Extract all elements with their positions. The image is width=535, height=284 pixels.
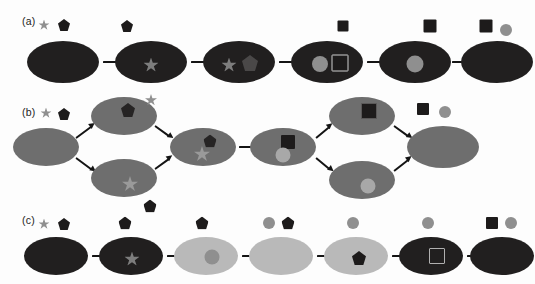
panel-c: (c) (0, 0, 535, 284)
cell-ellipse (470, 237, 534, 275)
panel-label-c: (c) (22, 214, 35, 226)
pentagon-free-icon (196, 217, 209, 230)
circle-free-icon (422, 217, 434, 229)
square-free-icon (486, 217, 498, 229)
circle-free-icon (263, 217, 275, 229)
square-outline-bound-icon (429, 248, 445, 264)
pentagon-free-icon (119, 217, 132, 230)
circle-bound-icon (205, 250, 220, 265)
legend-pentagon-icon (58, 218, 70, 230)
pentagon-free-icon (282, 217, 295, 230)
circle-free-icon (505, 217, 517, 229)
legend-star-icon (39, 219, 50, 230)
cell-ellipse (24, 237, 88, 275)
circle-free-icon (347, 217, 359, 229)
cell-ellipse (249, 237, 313, 275)
